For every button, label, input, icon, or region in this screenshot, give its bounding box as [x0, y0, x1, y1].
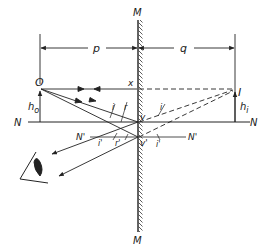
mirror — [138, 20, 143, 232]
normal-label-left: N — [14, 117, 22, 128]
object-height-label: ho — [28, 101, 39, 115]
virtual-rays — [139, 90, 233, 137]
normal2-label-right: N' — [188, 132, 197, 142]
image-label: I — [238, 86, 241, 99]
eye-icon — [20, 152, 48, 183]
angle-r2-label: r' — [115, 139, 121, 148]
mirror-label-bottom: M — [133, 235, 142, 246]
mirror-diagram: M M p q N N N' N' O ho I hi x — [0, 0, 266, 251]
angle-r-label: r — [124, 103, 128, 112]
vertex2-label: v' — [140, 138, 148, 148]
vertex-label: v — [140, 112, 146, 122]
object-distance-label: p — [92, 42, 100, 55]
normal2-label-left: N' — [76, 132, 85, 142]
mirror-label-top: M — [133, 7, 142, 18]
image-distance-label: q — [180, 42, 187, 55]
object-label: O — [35, 76, 44, 89]
horizontal-ray — [41, 87, 137, 92]
angle-i2-label: i' — [98, 139, 102, 148]
point-x-label: x — [127, 78, 134, 88]
image-height-label: hi — [240, 101, 249, 115]
angle-i-image-label: i — [160, 103, 163, 112]
angle-i2-image-label: i' — [156, 140, 160, 149]
reflected-rays — [52, 122, 138, 176]
normal-label-right: N — [250, 117, 258, 128]
